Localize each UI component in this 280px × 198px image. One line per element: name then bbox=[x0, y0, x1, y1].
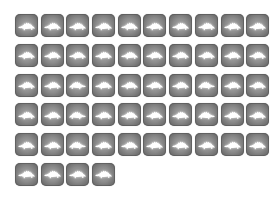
stegosaurus-icon bbox=[17, 108, 36, 122]
icon-tile-18[interactable] bbox=[195, 44, 218, 67]
stegosaurus-icon bbox=[145, 108, 164, 122]
stegosaurus-icon bbox=[248, 138, 267, 152]
stegosaurus-icon bbox=[197, 78, 216, 92]
stegosaurus-icon bbox=[94, 167, 113, 181]
stegosaurus-icon bbox=[248, 19, 267, 33]
icon-tile-48[interactable] bbox=[195, 133, 218, 156]
stegosaurus-icon bbox=[68, 19, 87, 33]
icon-tile-24[interactable] bbox=[92, 74, 115, 97]
icon-tile-1[interactable] bbox=[15, 14, 38, 37]
icon-tile-5[interactable] bbox=[118, 14, 141, 37]
stegosaurus-icon bbox=[43, 108, 62, 122]
stegosaurus-icon bbox=[171, 138, 190, 152]
icon-tile-44[interactable] bbox=[92, 133, 115, 156]
icon-tile-39[interactable] bbox=[221, 103, 244, 126]
icon-tile-30[interactable] bbox=[246, 74, 269, 97]
icon-tile-54[interactable] bbox=[92, 163, 115, 186]
icon-tile-35[interactable] bbox=[118, 103, 141, 126]
icon-tile-31[interactable] bbox=[15, 103, 38, 126]
icon-tile-36[interactable] bbox=[143, 103, 166, 126]
icon-tile-2[interactable] bbox=[41, 14, 64, 37]
icon-tile-32[interactable] bbox=[41, 103, 64, 126]
icon-tile-11[interactable] bbox=[15, 44, 38, 67]
stegosaurus-icon bbox=[43, 78, 62, 92]
stegosaurus-icon bbox=[223, 19, 242, 33]
icon-tile-34[interactable] bbox=[92, 103, 115, 126]
stegosaurus-icon bbox=[17, 19, 36, 33]
icon-tile-13[interactable] bbox=[66, 44, 89, 67]
icon-tile-49[interactable] bbox=[221, 133, 244, 156]
icon-tile-47[interactable] bbox=[169, 133, 192, 156]
stegosaurus-icon bbox=[248, 48, 267, 62]
icon-tile-25[interactable] bbox=[118, 74, 141, 97]
stegosaurus-icon bbox=[171, 108, 190, 122]
stegosaurus-icon bbox=[43, 167, 62, 181]
stegosaurus-icon bbox=[145, 78, 164, 92]
icon-tile-53[interactable] bbox=[66, 163, 89, 186]
stegosaurus-icon bbox=[68, 138, 87, 152]
stegosaurus-icon bbox=[17, 138, 36, 152]
icon-tile-6[interactable] bbox=[143, 14, 166, 37]
stegosaurus-icon bbox=[120, 48, 139, 62]
stegosaurus-icon bbox=[17, 48, 36, 62]
icon-tile-40[interactable] bbox=[246, 103, 269, 126]
stegosaurus-icon bbox=[120, 19, 139, 33]
stegosaurus-icon bbox=[197, 108, 216, 122]
stegosaurus-icon bbox=[197, 19, 216, 33]
icon-tile-16[interactable] bbox=[143, 44, 166, 67]
stegosaurus-icon bbox=[94, 48, 113, 62]
icon-tile-33[interactable] bbox=[66, 103, 89, 126]
icon-tile-26[interactable] bbox=[143, 74, 166, 97]
icon-tile-37[interactable] bbox=[169, 103, 192, 126]
icon-tile-52[interactable] bbox=[41, 163, 64, 186]
icon-tile-20[interactable] bbox=[246, 44, 269, 67]
stegosaurus-icon bbox=[223, 48, 242, 62]
stegosaurus-icon bbox=[223, 108, 242, 122]
icon-tile-8[interactable] bbox=[195, 14, 218, 37]
icon-tile-46[interactable] bbox=[143, 133, 166, 156]
stegosaurus-icon bbox=[43, 19, 62, 33]
icon-tile-28[interactable] bbox=[195, 74, 218, 97]
stegosaurus-icon bbox=[171, 78, 190, 92]
icon-tile-15[interactable] bbox=[118, 44, 141, 67]
stegosaurus-icon bbox=[197, 48, 216, 62]
icon-tile-45[interactable] bbox=[118, 133, 141, 156]
icon-tile-9[interactable] bbox=[221, 14, 244, 37]
stegosaurus-icon bbox=[120, 108, 139, 122]
stegosaurus-icon bbox=[68, 167, 87, 181]
stegosaurus-icon bbox=[68, 108, 87, 122]
stegosaurus-icon bbox=[120, 138, 139, 152]
icon-tile-22[interactable] bbox=[41, 74, 64, 97]
icon-tile-3[interactable] bbox=[66, 14, 89, 37]
icon-tile-50[interactable] bbox=[246, 133, 269, 156]
icon-tile-27[interactable] bbox=[169, 74, 192, 97]
icon-tile-14[interactable] bbox=[92, 44, 115, 67]
icon-grid bbox=[15, 14, 269, 186]
icon-tile-43[interactable] bbox=[66, 133, 89, 156]
stegosaurus-icon bbox=[68, 48, 87, 62]
icon-tile-41[interactable] bbox=[15, 133, 38, 156]
icon-tile-4[interactable] bbox=[92, 14, 115, 37]
icon-tile-38[interactable] bbox=[195, 103, 218, 126]
stegosaurus-icon bbox=[223, 78, 242, 92]
icon-tile-42[interactable] bbox=[41, 133, 64, 156]
stegosaurus-icon bbox=[248, 108, 267, 122]
icon-tile-12[interactable] bbox=[41, 44, 64, 67]
icon-tile-10[interactable] bbox=[246, 14, 269, 37]
stegosaurus-icon bbox=[68, 78, 87, 92]
stegosaurus-icon bbox=[94, 138, 113, 152]
stegosaurus-icon bbox=[94, 108, 113, 122]
icon-tile-29[interactable] bbox=[221, 74, 244, 97]
icon-tile-51[interactable] bbox=[15, 163, 38, 186]
icon-tile-7[interactable] bbox=[169, 14, 192, 37]
stegosaurus-icon bbox=[17, 78, 36, 92]
icon-tile-21[interactable] bbox=[15, 74, 38, 97]
stegosaurus-icon bbox=[223, 138, 242, 152]
stegosaurus-icon bbox=[171, 19, 190, 33]
stegosaurus-icon bbox=[120, 78, 139, 92]
icon-tile-17[interactable] bbox=[169, 44, 192, 67]
icon-tile-23[interactable] bbox=[66, 74, 89, 97]
icon-tile-19[interactable] bbox=[221, 44, 244, 67]
stegosaurus-icon bbox=[43, 48, 62, 62]
stegosaurus-icon bbox=[94, 78, 113, 92]
